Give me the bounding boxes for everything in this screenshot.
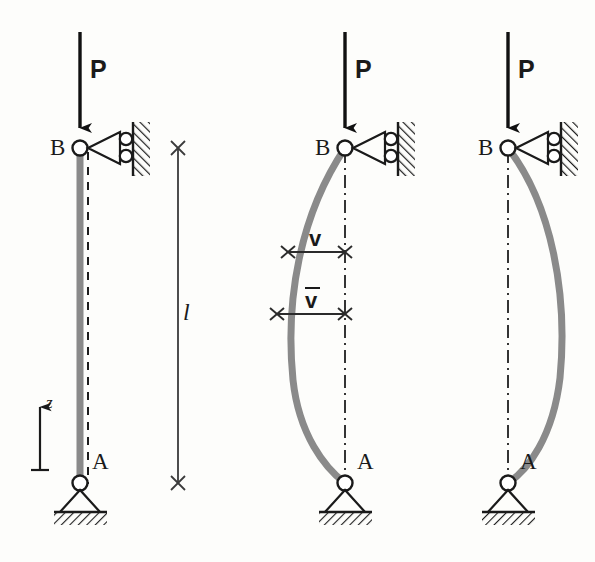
column-member-buckled — [508, 148, 562, 483]
load-label-P: P — [518, 55, 535, 83]
roller-circle-lower — [548, 150, 560, 162]
panel-buckled-right: P B A — [478, 32, 578, 525]
ground-hatching — [482, 512, 535, 525]
deflection-label-v: v — [309, 226, 322, 251]
pin-support-bottom — [54, 490, 107, 525]
node-B-hinge — [338, 141, 353, 156]
pin-support-bottom — [482, 490, 535, 525]
column-buckling-figure: P B A z — [0, 0, 595, 562]
roller-circle-upper — [385, 133, 397, 145]
node-label-B: B — [315, 135, 330, 160]
column-member-buckled — [291, 148, 345, 483]
z-axis-label: z — [45, 393, 53, 412]
node-label-A: A — [357, 449, 374, 474]
wall-hatching — [561, 122, 578, 176]
node-A-hinge — [73, 476, 88, 491]
roller-support-top — [88, 122, 150, 176]
roller-support-top — [353, 122, 415, 176]
ground-hatching — [54, 512, 107, 525]
length-dimension-label: l — [183, 299, 190, 325]
node-B-hinge — [73, 141, 88, 156]
wall-hatching — [133, 122, 150, 176]
node-B-hinge — [501, 141, 516, 156]
node-A-hinge — [338, 476, 353, 491]
roller-circle-lower — [120, 150, 132, 162]
deflection-label-v-bar: v — [305, 288, 318, 313]
wall-hatching — [398, 122, 415, 176]
node-label-B: B — [50, 135, 65, 160]
load-label-P: P — [90, 55, 107, 83]
load-label-P: P — [355, 55, 372, 83]
panel-buckled-left: P B v — [270, 32, 415, 525]
z-axis — [31, 407, 49, 470]
node-label-A: A — [520, 449, 537, 474]
pin-support-bottom — [319, 490, 372, 525]
roller-circle-upper — [120, 133, 132, 145]
figure-canvas: P B A z — [0, 0, 595, 562]
ground-hatching — [319, 512, 372, 525]
panel-undeformed-column: P B A z — [31, 32, 150, 525]
roller-circle-lower — [385, 150, 397, 162]
node-label-A: A — [92, 449, 109, 474]
roller-circle-upper — [548, 133, 560, 145]
node-label-B: B — [478, 135, 493, 160]
node-A-hinge — [501, 476, 516, 491]
